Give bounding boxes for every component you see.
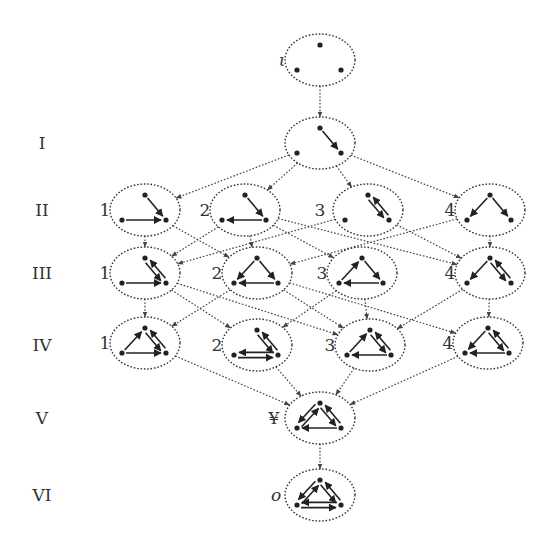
state-node-II-1: 1 [100, 184, 180, 236]
arrow-T-to-R-icon [146, 333, 161, 351]
vertex-R-dot [388, 352, 393, 357]
edge-I-to-II-4 [351, 155, 459, 198]
arrow-L-to-T-icon [350, 334, 367, 352]
arrow-L-to-T-icon [125, 332, 142, 350]
vertex-T-dot [317, 125, 322, 130]
vertex-T-dot [254, 255, 259, 260]
node-ellipse [222, 247, 292, 299]
node-ellipse [285, 34, 355, 86]
edge-I-to-II-1 [176, 155, 289, 198]
state-node-VI: o [271, 469, 355, 521]
vertex-T-dot [142, 192, 147, 197]
arrow-R-to-T-icon [325, 405, 340, 423]
vertex-R-dot [508, 217, 513, 222]
node-ellipse [285, 117, 355, 169]
node-label: 1 [100, 200, 111, 220]
arrow-T-to-R-icon [148, 198, 163, 216]
arrow-R-to-T-icon [493, 330, 508, 348]
arrow-R-to-T-icon [262, 332, 277, 350]
state-node-iota: ι [279, 34, 355, 86]
state-node-II-2: 2 [200, 184, 280, 236]
state-node-V: ¥ [268, 392, 355, 444]
arrow-R-to-T-icon [150, 260, 165, 278]
vertex-L-dot [294, 150, 299, 155]
edge-III-3-to-IV-2 [283, 291, 337, 328]
arrow-T-to-L-icon [470, 261, 487, 279]
row-label-IV: IV [33, 335, 53, 355]
state-node-IV-1: 1 [100, 317, 180, 369]
arrow-R-to-T-icon [495, 260, 510, 278]
vertex-L-dot [231, 352, 236, 357]
node-label: 2 [200, 200, 211, 220]
vertex-R-dot [163, 217, 168, 222]
node-label: 4 [445, 263, 456, 283]
state-node-IV-3: 3 [325, 319, 405, 371]
edge-II-3-to-III-4 [397, 225, 462, 258]
state-lattice-diagram: IIIIIIIVVVI ι123412341234¥o [0, 0, 553, 548]
vertex-R-dot [163, 350, 168, 355]
arrow-T-to-R-icon [323, 131, 338, 149]
state-node-I [285, 117, 355, 169]
vertex-L-dot [336, 280, 341, 285]
edge-II-1-to-III-2 [173, 226, 229, 258]
vertex-L-dot [462, 350, 467, 355]
node-label: ι [279, 50, 286, 70]
vertex-T-dot [317, 400, 322, 405]
node-ellipse [455, 247, 525, 299]
node-ellipse [335, 319, 405, 371]
node-label: 3 [315, 200, 326, 220]
arrow-R-to-T-icon [373, 197, 388, 215]
arrow-T-to-R-icon [321, 408, 336, 426]
node-label: 3 [325, 335, 336, 355]
edge-II-4-to-III-2 [290, 219, 457, 264]
vertex-R-dot [380, 280, 385, 285]
arrow-T-to-L-icon [470, 198, 487, 216]
arrow-L-to-T-icon [302, 408, 319, 426]
vertex-T-dot [367, 327, 372, 332]
arrow-T-to-R-icon [365, 261, 380, 279]
node-label: 3 [317, 263, 328, 283]
edge-II-2-to-III-4 [278, 219, 457, 265]
row-label-II: II [35, 200, 48, 220]
arrow-T-to-L-icon [298, 481, 315, 499]
vertex-L-dot [342, 217, 347, 222]
vertex-T-dot [254, 327, 259, 332]
node-ellipse [453, 317, 523, 369]
arrow-T-to-R-icon [321, 485, 336, 503]
edge-IV-2-to-V [276, 367, 301, 396]
node-ellipse [210, 184, 280, 236]
node-label: 4 [443, 333, 454, 353]
node-label: 2 [212, 263, 223, 283]
vertex-L-dot [119, 280, 124, 285]
state-node-III-1: 1 [100, 247, 180, 299]
arrow-T-to-R-icon [493, 198, 508, 216]
node-label: o [271, 485, 281, 505]
vertex-L-dot [219, 217, 224, 222]
vertex-R-dot [506, 350, 511, 355]
edge-IV-3-to-V [336, 368, 354, 395]
arrow-T-to-R-icon [248, 198, 263, 216]
edge-II-2-to-III-2 [250, 236, 252, 248]
arrow-T-to-R-icon [369, 200, 384, 218]
vertex-L-dot [294, 502, 299, 507]
vertex-R-dot [386, 217, 391, 222]
node-ellipse [285, 392, 355, 444]
node-label: 1 [100, 263, 111, 283]
state-node-II-4: 4 [445, 184, 525, 236]
arrow-T-to-L-icon [468, 331, 485, 349]
vertex-T-dot [485, 325, 490, 330]
vertex-L-dot [464, 217, 469, 222]
node-ellipse [110, 317, 180, 369]
arrow-L-to-T-icon [302, 485, 319, 503]
arrow-T-to-L-icon [237, 261, 254, 279]
vertex-R-dot [338, 425, 343, 430]
vertex-T-dot [142, 325, 147, 330]
vertex-R-dot [275, 352, 280, 357]
node-ellipse [222, 319, 292, 371]
vertex-T-dot [487, 192, 492, 197]
state-node-III-4: 4 [445, 247, 525, 299]
state-node-IV-4: 4 [443, 317, 523, 369]
arrow-T-to-R-icon [491, 263, 506, 281]
node-ellipse [110, 247, 180, 299]
state-node-IV-2: 2 [212, 319, 292, 371]
